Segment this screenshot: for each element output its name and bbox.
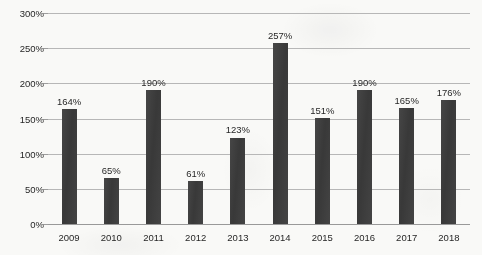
x-axis-tick-label: 2013	[215, 232, 261, 243]
gridline	[48, 83, 470, 84]
bar	[273, 43, 288, 224]
x-axis-tick-label: 2016	[342, 232, 388, 243]
y-axis-tick-label: 150%	[0, 113, 44, 124]
bar-value-label: 190%	[342, 77, 388, 88]
bar-value-label: 190%	[131, 77, 177, 88]
y-axis-tick-label: 100%	[0, 148, 44, 159]
bar-chart: 0%50%100%150%200%250%300% 20092010201120…	[0, 0, 482, 255]
y-axis-tick-label: 0%	[0, 219, 44, 230]
bar	[399, 108, 414, 224]
gridline	[48, 13, 470, 14]
bar-value-label: 257%	[257, 30, 303, 41]
bar	[62, 109, 77, 224]
bar	[188, 181, 203, 224]
x-axis-tick-label: 2009	[46, 232, 92, 243]
bar	[315, 118, 330, 224]
bar	[104, 178, 119, 224]
bar	[357, 90, 372, 224]
gridline	[48, 48, 470, 49]
x-axis-tick-label: 2018	[426, 232, 472, 243]
y-axis-tick-label: 50%	[0, 183, 44, 194]
y-axis-tick-label: 300%	[0, 8, 44, 19]
x-axis-tick-label: 2014	[257, 232, 303, 243]
bar-value-label: 165%	[384, 95, 430, 106]
bar-value-label: 164%	[46, 96, 92, 107]
x-axis-tick-label: 2015	[299, 232, 345, 243]
x-axis-tick-label: 2017	[384, 232, 430, 243]
bar-value-label: 123%	[215, 124, 261, 135]
x-axis-tick-label: 2011	[131, 232, 177, 243]
bar	[441, 100, 456, 224]
plot-area	[48, 13, 470, 224]
bar-value-label: 65%	[88, 165, 134, 176]
y-axis-tick-label: 250%	[0, 43, 44, 54]
bar-value-label: 61%	[173, 168, 219, 179]
x-axis-tick-label: 2012	[173, 232, 219, 243]
bar-value-label: 151%	[299, 105, 345, 116]
bar	[146, 90, 161, 224]
bar	[230, 138, 245, 225]
x-axis-tick-label: 2010	[88, 232, 134, 243]
bar-value-label: 176%	[426, 87, 472, 98]
gridline	[48, 224, 470, 225]
y-axis-tick-label: 200%	[0, 78, 44, 89]
